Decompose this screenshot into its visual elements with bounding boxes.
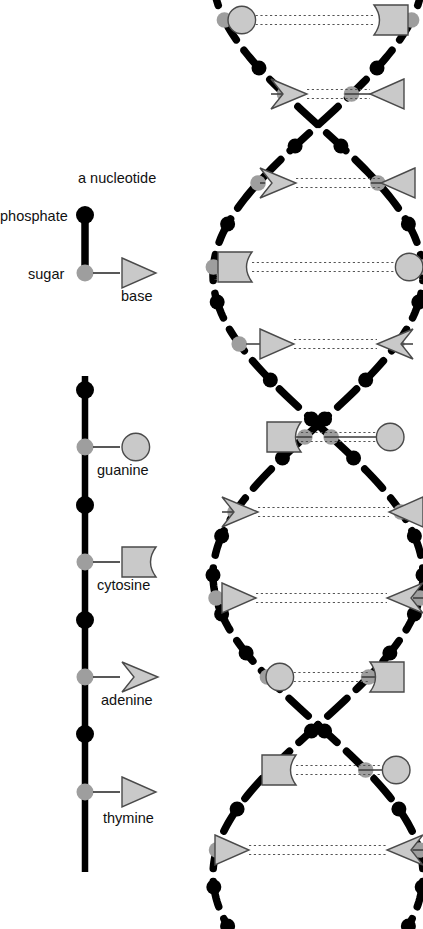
sugar-label: sugar bbox=[28, 266, 64, 282]
hydrogen-bond bbox=[256, 594, 387, 603]
phosphate-bead bbox=[317, 412, 332, 427]
phosphate-bead bbox=[333, 139, 348, 154]
base-label: base bbox=[121, 288, 152, 304]
hydrogen-bond bbox=[256, 16, 374, 25]
hydrogen-bond bbox=[258, 508, 389, 517]
phosphate-bead bbox=[407, 529, 422, 544]
phosphate-label: phosphate bbox=[0, 208, 68, 224]
phosphate-bead bbox=[76, 206, 94, 224]
helix-backbone-strand-a bbox=[213, 0, 423, 929]
phosphate-bead bbox=[214, 529, 229, 544]
sugar-bead bbox=[77, 669, 94, 686]
phosphate-bead bbox=[382, 646, 397, 661]
sugar-bead bbox=[77, 265, 94, 282]
base-thymine-pair4 bbox=[260, 329, 294, 359]
hydrogen-bond bbox=[296, 179, 381, 188]
phosphate-bead bbox=[76, 496, 94, 514]
base-guanine-chain bbox=[122, 433, 150, 461]
phosphate-bead bbox=[415, 880, 423, 895]
phosphate-bead bbox=[358, 373, 373, 388]
nucleotide-title: a nucleotide bbox=[78, 170, 156, 186]
phosphate-bead bbox=[230, 802, 245, 817]
phosphate-bead bbox=[206, 880, 221, 895]
base-thymine-legend bbox=[122, 258, 156, 288]
phosphate-bead bbox=[304, 724, 319, 739]
phosphate-bead bbox=[239, 646, 254, 661]
phosphate-bead bbox=[76, 381, 94, 399]
base-cytosine-pair9 bbox=[262, 755, 296, 785]
base-guanine-pair0 bbox=[228, 6, 256, 34]
hydrogen-bond bbox=[249, 846, 387, 855]
phosphate-bead bbox=[391, 802, 406, 817]
phosphate-bead bbox=[317, 724, 332, 739]
base-cytosine-pair8 bbox=[370, 662, 404, 692]
sugar-bead bbox=[231, 336, 247, 352]
phosphate-bead bbox=[288, 139, 303, 154]
cytosine-label: cytosine bbox=[97, 577, 150, 593]
phosphate-bead bbox=[346, 451, 361, 466]
guanine-label: guanine bbox=[97, 462, 149, 478]
base-thymine-pair1 bbox=[370, 79, 404, 109]
base-cytosine-pair0 bbox=[374, 5, 408, 35]
base-guanine-pair8 bbox=[266, 663, 294, 691]
base-cytosine-pair3 bbox=[218, 252, 252, 282]
base-cytosine-pair5 bbox=[267, 422, 301, 452]
adenine-label: adenine bbox=[101, 692, 153, 708]
sugar-bead bbox=[77, 784, 94, 801]
base-adenine-chain bbox=[122, 662, 158, 692]
sugar-bead bbox=[77, 554, 94, 571]
base-guanine-pair9 bbox=[382, 756, 410, 784]
hydrogen-bond bbox=[252, 263, 395, 272]
phosphate-bead bbox=[220, 217, 235, 232]
helix-backbone-strand-b bbox=[213, 0, 423, 929]
phosphate-bead bbox=[206, 568, 221, 583]
diagram-canvas bbox=[0, 0, 423, 929]
phosphate-bead bbox=[401, 217, 416, 232]
phosphate-bead bbox=[76, 611, 94, 629]
phosphate-bead bbox=[263, 373, 278, 388]
phosphate-bead bbox=[416, 568, 423, 583]
phosphate-bead bbox=[251, 61, 266, 76]
sugar-bead bbox=[77, 439, 94, 456]
base-guanine-pair3 bbox=[395, 253, 423, 281]
base-thymine-chain bbox=[122, 777, 156, 807]
hydrogen-bond bbox=[294, 673, 370, 682]
base-guanine-pair5 bbox=[376, 423, 404, 451]
dna-diagram: a nucleotide phosphate sugar base guanin… bbox=[0, 0, 423, 929]
phosphate-bead bbox=[304, 412, 319, 427]
phosphate-bead bbox=[76, 725, 94, 743]
phosphate-bead bbox=[370, 61, 385, 76]
phosphate-bead bbox=[275, 451, 290, 466]
base-thymine-pair10 bbox=[215, 835, 249, 865]
thymine-label: thymine bbox=[103, 810, 154, 826]
base-thymine-pair7 bbox=[222, 583, 256, 613]
phosphate-bead bbox=[210, 295, 225, 310]
hydrogen-bond bbox=[294, 340, 377, 349]
base-cytosine-chain bbox=[122, 547, 156, 577]
